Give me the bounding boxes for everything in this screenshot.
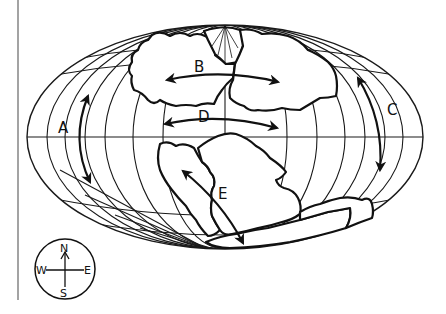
label-c: C xyxy=(387,101,397,119)
compass-south: S xyxy=(60,287,67,300)
label-e: E xyxy=(218,185,227,203)
pangaea-map-figure: A B C D E N S E W xyxy=(0,0,446,314)
compass-east: E xyxy=(84,264,91,277)
compass-west: W xyxy=(36,264,47,277)
label-d: D xyxy=(198,108,210,126)
label-b: B xyxy=(194,58,204,76)
compass-north: N xyxy=(60,242,68,255)
label-a: A xyxy=(58,119,69,137)
compass-rose-icon: N S E W xyxy=(35,239,95,300)
